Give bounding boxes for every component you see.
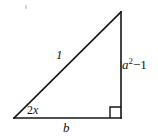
scan-artifact-speck [25, 5, 27, 9]
angle-variable: x [33, 103, 38, 117]
hypotenuse-label: 1 [56, 48, 63, 61]
right-angle-marker [110, 107, 121, 118]
angle-label: 2x [27, 104, 38, 116]
triangle-figure: 1 a2−1 b 2x [0, 0, 158, 140]
vertical-leg-label: a2−1 [122, 58, 147, 71]
vertical-leg-term: 1 [140, 57, 147, 72]
base-label: b [63, 121, 70, 134]
